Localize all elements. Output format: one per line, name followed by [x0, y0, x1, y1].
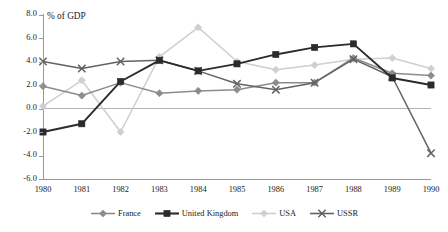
cross-marker: [427, 149, 434, 156]
diamond-marker: [427, 72, 434, 79]
legend-item-usa[interactable]: USA: [251, 208, 296, 219]
chart-container: % of GDP 8.06.04.02.00.0-2.0-4.0-6.0 198…: [0, 0, 448, 232]
data-point-marker: [273, 51, 279, 57]
data-point-marker: [79, 121, 85, 127]
square-marker: [389, 75, 395, 81]
legend-item-ussr[interactable]: USSR: [309, 208, 358, 219]
data-point-marker: [261, 209, 268, 216]
data-point-marker: [272, 66, 279, 73]
square-marker: [79, 121, 85, 127]
square-marker: [350, 41, 356, 47]
diamond-marker: [427, 65, 434, 72]
diamond-marker: [39, 83, 46, 90]
data-point-marker: [99, 209, 106, 216]
diamond-marker: [389, 54, 396, 61]
square-marker: [312, 44, 318, 50]
series-usa: [39, 24, 434, 136]
series-line: [43, 27, 431, 132]
square-marker: [156, 57, 162, 63]
y-axis-tick-mark: [39, 38, 43, 39]
data-point-marker: [389, 54, 396, 61]
data-point-marker: [195, 68, 201, 74]
data-point-marker: [272, 79, 279, 86]
legend-swatch-square-icon: [154, 208, 180, 219]
square-marker: [164, 210, 170, 216]
y-axis-tick-mark: [39, 15, 43, 16]
square-marker: [234, 61, 240, 67]
data-point-marker: [118, 78, 124, 84]
data-point-marker: [156, 57, 162, 63]
y-axis-tick-mark: [39, 85, 43, 86]
diamond-marker: [272, 79, 279, 86]
diamond-marker: [99, 209, 106, 216]
data-point-marker: [234, 61, 240, 67]
data-point-marker: [427, 72, 434, 79]
square-marker: [428, 82, 434, 88]
square-marker: [118, 78, 124, 84]
data-point-marker: [164, 210, 170, 216]
data-point-marker: [428, 82, 434, 88]
data-point-marker: [311, 61, 318, 68]
data-point-marker: [312, 44, 318, 50]
legend-swatch-cross-icon: [309, 208, 335, 219]
data-point-marker: [195, 87, 202, 94]
legend-swatch-diamond-icon: [251, 208, 277, 219]
data-point-marker: [156, 90, 163, 97]
y-axis-tick-mark: [39, 179, 43, 180]
y-axis-tick-mark: [39, 62, 43, 63]
square-marker: [195, 68, 201, 74]
data-point-marker: [39, 83, 46, 90]
legend-item-united-kingdom[interactable]: United Kingdom: [154, 208, 239, 219]
diamond-marker: [195, 87, 202, 94]
diamond-marker: [261, 209, 268, 216]
legend-label: United Kingdom: [182, 209, 239, 218]
data-point-marker: [350, 41, 356, 47]
diamond-marker: [311, 61, 318, 68]
diamond-marker: [272, 66, 279, 73]
square-marker: [273, 51, 279, 57]
diamond-marker: [78, 92, 85, 99]
y-axis-tick-mark: [39, 109, 43, 110]
plot-area: [0, 0, 448, 232]
y-axis-tick-mark: [39, 156, 43, 157]
legend-label: USA: [279, 209, 296, 218]
data-point-marker: [78, 92, 85, 99]
legend-label: France: [118, 209, 141, 218]
y-axis-tick-mark: [39, 132, 43, 133]
diamond-marker: [156, 90, 163, 97]
chart-legend: FranceUnited KingdomUSAUSSR: [0, 205, 448, 221]
data-point-marker: [389, 75, 395, 81]
legend-item-france[interactable]: France: [90, 208, 141, 219]
data-point-marker: [427, 149, 434, 156]
data-point-marker: [427, 65, 434, 72]
legend-swatch-diamond-icon: [90, 208, 116, 219]
legend-label: USSR: [337, 209, 358, 218]
